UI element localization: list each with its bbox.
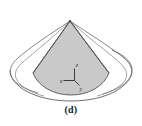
apex-point <box>69 20 71 22</box>
x-axis-label: x <box>59 78 63 84</box>
y-axis-label: y <box>79 86 83 92</box>
figure-container: z x y (d) <box>0 0 142 126</box>
figure-caption: (d) <box>0 104 142 116</box>
